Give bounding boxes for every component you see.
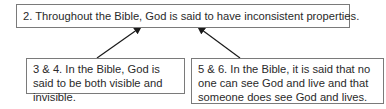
conclusion-box: 2. Throughout the Bible, God is said to …: [16, 4, 350, 28]
conclusion-text: 2. Throughout the Bible, God is said to …: [23, 10, 359, 22]
premise-box-visible-invisible: 3 & 4. In the Bible, God is said to be b…: [26, 58, 185, 94]
arrow-right-to-conclusion: [198, 27, 240, 58]
premise-text: 5 & 6. In the Bible, it is said that no …: [198, 63, 370, 103]
arrow-left-to-conclusion: [97, 27, 141, 58]
premise-box-see-god-live: 5 & 6. In the Bible, it is said that no …: [191, 58, 384, 104]
